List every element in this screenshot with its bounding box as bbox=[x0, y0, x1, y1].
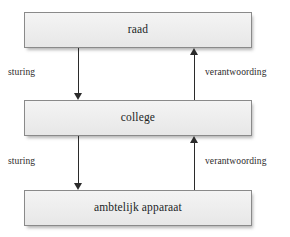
node-raad: raad bbox=[24, 12, 252, 48]
node-ambtelijk-apparaat: ambtelijk apparaat bbox=[24, 190, 252, 226]
edge-label-verantwoording-lower: verantwoording bbox=[205, 157, 267, 167]
arrow-down-college-to-ambtelijk-apparaat bbox=[73, 136, 84, 190]
arrow-shaft bbox=[78, 48, 79, 94]
arrow-up-college-to-raad bbox=[189, 48, 200, 100]
node-ambtelijk-apparaat-label: ambtelijk apparaat bbox=[94, 202, 182, 214]
arrow-shaft bbox=[78, 136, 79, 184]
diagram-canvas: raad college ambtelijk apparaat sturing … bbox=[0, 0, 290, 237]
edge-label-sturing-upper: sturing bbox=[8, 68, 35, 78]
arrowhead-down-icon bbox=[74, 93, 82, 100]
node-college: college bbox=[24, 100, 252, 136]
node-raad-label: raad bbox=[128, 24, 148, 36]
edge-label-sturing-lower: sturing bbox=[8, 157, 35, 167]
arrow-down-raad-to-college bbox=[73, 48, 84, 100]
arrowhead-up-icon bbox=[190, 48, 198, 55]
edge-label-verantwoording-upper: verantwoording bbox=[205, 68, 267, 78]
arrowhead-up-icon bbox=[190, 136, 198, 143]
arrow-shaft bbox=[194, 142, 195, 190]
arrow-up-ambtelijk-apparaat-to-college bbox=[189, 136, 200, 190]
arrowhead-down-icon bbox=[74, 183, 82, 190]
node-college-label: college bbox=[121, 112, 155, 124]
arrow-shaft bbox=[194, 54, 195, 100]
